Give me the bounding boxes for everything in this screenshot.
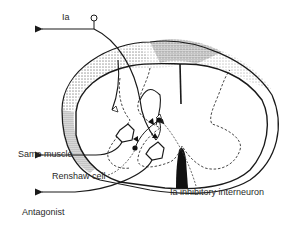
label-antagonist: Antagonist: [22, 208, 65, 217]
label-ia-afferent: Ia: [62, 13, 70, 22]
motor-neuron-antagonist: [146, 142, 164, 160]
label-renshaw-cell: Renshaw cell: [52, 172, 106, 181]
ia-afferent-fiber: [42, 15, 162, 140]
spinal-cord-diagram: Ia Same muscle Renshaw cell Antagonist I…: [0, 0, 290, 230]
label-ia-inhibitory-interneuron: Ia inhibitory interneuron: [170, 188, 264, 197]
motor-neuron-homonymous: [116, 124, 134, 142]
label-same-muscle: Same muscle: [18, 150, 73, 159]
